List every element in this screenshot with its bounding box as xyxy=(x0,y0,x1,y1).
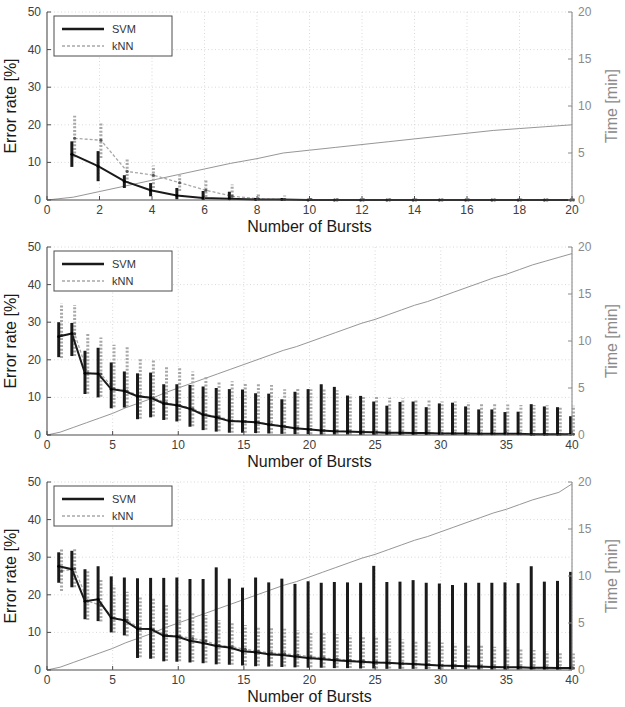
figure-container: 010203040500510152002468101214161820Erro… xyxy=(0,0,625,707)
xtick-label: 15 xyxy=(237,673,251,687)
mean-marker xyxy=(215,644,218,647)
y-axis-title: Error rate [%] xyxy=(2,528,19,623)
x-axis-title: Number of Bursts xyxy=(247,218,371,235)
chart-svg-2: 01020304050051015200510152025303540Error… xyxy=(0,470,625,705)
mean-marker xyxy=(191,637,194,640)
mean-marker xyxy=(267,653,270,656)
xtick-label: 12 xyxy=(355,203,369,217)
xtick-label: 2 xyxy=(96,203,103,217)
ytick-label: 30 xyxy=(28,80,42,94)
xtick-label: 35 xyxy=(500,673,514,687)
mean-marker xyxy=(188,639,191,642)
ytick-right-label: 5 xyxy=(578,146,585,160)
ytick-label: 20 xyxy=(28,353,42,367)
mean-marker xyxy=(175,635,178,638)
mean-marker xyxy=(215,416,218,419)
mean-marker xyxy=(57,565,60,568)
mean-marker xyxy=(241,420,244,423)
xtick-label: 10 xyxy=(172,438,186,452)
ytick-right-label: 0 xyxy=(578,193,585,207)
chart-panel-bottom: 01020304050051015200510152025303540Error… xyxy=(0,470,625,705)
xtick-label: 0 xyxy=(44,438,51,452)
ytick-right-label: 5 xyxy=(578,381,585,395)
mean-marker xyxy=(425,663,428,666)
mean-marker xyxy=(398,431,401,434)
mean-marker xyxy=(412,432,415,435)
ytick-label: 20 xyxy=(28,588,42,602)
mean-marker xyxy=(307,428,310,431)
mean-marker xyxy=(188,407,191,410)
ytick-label: 20 xyxy=(28,118,42,132)
xtick-label: 40 xyxy=(565,673,579,687)
ytick-right-label: 15 xyxy=(578,522,592,536)
mean-marker xyxy=(231,195,234,198)
mean-marker xyxy=(175,404,178,407)
mean-marker xyxy=(73,332,76,335)
mean-marker xyxy=(346,659,349,662)
chart-panel-middle: 01020304050051015200510152025303540Error… xyxy=(0,235,625,470)
ytick-label: 30 xyxy=(28,550,42,564)
mean-marker xyxy=(280,425,283,428)
legend-label-svm: SVM xyxy=(112,493,136,505)
mean-marker xyxy=(204,640,207,643)
mean-marker xyxy=(425,432,428,435)
y-axis-title: Error rate [%] xyxy=(2,58,19,153)
mean-marker xyxy=(70,153,73,156)
mean-marker xyxy=(293,655,296,658)
mean-marker xyxy=(490,665,493,668)
ytick-right-label: 10 xyxy=(578,569,592,583)
mean-marker xyxy=(83,372,86,375)
mean-marker xyxy=(162,634,165,637)
xtick-label: 35 xyxy=(500,438,514,452)
mean-marker xyxy=(320,429,323,432)
mean-marker xyxy=(149,189,152,192)
mean-marker xyxy=(464,665,467,668)
mean-line xyxy=(59,566,571,668)
xtick-label: 25 xyxy=(368,438,382,452)
xtick-label: 6 xyxy=(201,203,208,217)
xtick-label: 30 xyxy=(434,673,448,687)
ytick-right-label: 15 xyxy=(578,52,592,66)
mean-marker xyxy=(477,665,480,668)
mean-marker xyxy=(73,567,76,570)
mean-marker xyxy=(202,413,205,416)
mean-marker xyxy=(359,660,362,663)
chart-svg-1: 01020304050051015200510152025303540Error… xyxy=(0,235,625,470)
mean-marker xyxy=(175,194,178,197)
ytick-right-label: 0 xyxy=(578,663,585,677)
ytick-label: 0 xyxy=(34,428,41,442)
ytick-label: 10 xyxy=(28,390,42,404)
mean-marker xyxy=(228,420,231,423)
series-svm-panel-0 xyxy=(70,141,572,201)
ytick-label: 10 xyxy=(28,155,42,169)
mean-marker xyxy=(543,666,546,669)
ytick-label: 50 xyxy=(28,5,42,19)
mean-marker xyxy=(136,627,139,630)
x-axis-title: Number of Bursts xyxy=(247,453,371,470)
mean-line xyxy=(72,154,571,200)
mean-marker xyxy=(241,650,244,653)
mean-marker xyxy=(57,335,60,338)
legend-2: SVMkNN xyxy=(54,486,172,526)
mean-marker xyxy=(97,598,100,601)
mean-marker xyxy=(517,666,520,669)
xtick-label: 20 xyxy=(303,673,317,687)
xtick-label: 40 xyxy=(565,438,579,452)
mean-marker xyxy=(149,628,152,631)
xtick-label: 18 xyxy=(513,203,527,217)
ytick-label: 30 xyxy=(28,315,42,329)
ytick-right-label: 20 xyxy=(578,5,592,19)
xtick-label: 0 xyxy=(44,673,51,687)
xtick-label: 5 xyxy=(109,673,116,687)
mean-marker xyxy=(307,656,310,659)
xtick-label: 4 xyxy=(149,203,156,217)
mean-marker xyxy=(267,423,270,426)
xtick-label: 14 xyxy=(408,203,422,217)
mean-marker xyxy=(73,137,76,140)
ytick-label: 40 xyxy=(28,43,42,57)
legend-label-svm: SVM xyxy=(112,258,136,270)
mean-marker xyxy=(412,662,415,665)
ytick-right-label: 20 xyxy=(578,240,592,254)
mean-marker xyxy=(385,661,388,664)
mean-marker xyxy=(70,332,73,335)
